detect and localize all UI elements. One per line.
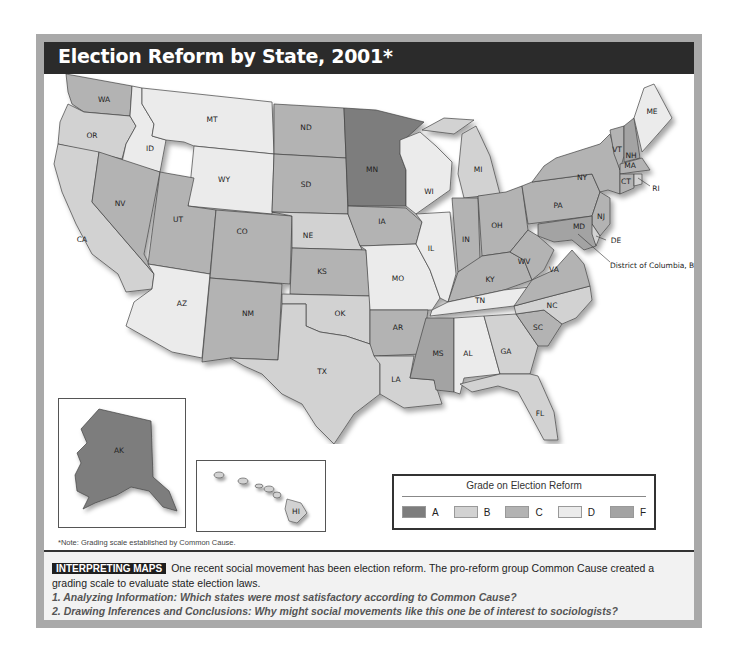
legend-label-c: C <box>535 507 542 518</box>
svg-text:NC: NC <box>547 301 558 310</box>
svg-text:IA: IA <box>378 217 386 226</box>
state-WI[interactable] <box>400 132 452 214</box>
svg-text:GA: GA <box>501 347 513 356</box>
map-panel: Election Reform by State, 2001* <box>44 42 694 620</box>
svg-text:MS: MS <box>432 349 443 358</box>
svg-text:KY: KY <box>485 275 495 284</box>
svg-text:CA: CA <box>77 235 88 244</box>
swatch-d <box>558 506 582 518</box>
svg-text:NM: NM <box>242 309 254 318</box>
swatch-b <box>454 506 478 518</box>
callout-ri: RI <box>652 184 659 193</box>
svg-text:NV: NV <box>115 199 127 208</box>
state-NM[interactable] <box>202 278 282 362</box>
svg-text:CT: CT <box>621 177 631 186</box>
svg-text:WI: WI <box>424 187 434 196</box>
svg-text:TN: TN <box>474 296 485 305</box>
svg-text:NJ: NJ <box>597 212 605 221</box>
svg-text:WA: WA <box>98 95 111 104</box>
legend-label-a: A <box>432 507 439 518</box>
svg-text:AK: AK <box>114 446 125 455</box>
legend-label-d: D <box>588 507 595 518</box>
interpreting-maps-text: INTERPRETING MAPSOne recent social movem… <box>52 561 684 618</box>
svg-text:AL: AL <box>463 349 473 358</box>
svg-text:VA: VA <box>549 265 560 274</box>
svg-text:ID: ID <box>146 144 154 153</box>
svg-text:CO: CO <box>236 227 247 236</box>
callout-de: DE <box>611 236 622 245</box>
legend: Grade on Election Reform A B C D <box>392 474 656 530</box>
legend-item-f: F <box>610 506 646 518</box>
state-KS[interactable] <box>290 248 370 296</box>
svg-text:IN: IN <box>462 235 470 244</box>
svg-text:OK: OK <box>335 309 347 318</box>
svg-text:NH: NH <box>625 151 636 160</box>
map-frame: Election Reform by State, 2001* <box>36 34 702 628</box>
svg-text:ME: ME <box>646 107 657 116</box>
inset-alaska: AK <box>58 398 186 528</box>
question-1: 1. Analyzing Information: Which states w… <box>52 591 517 603</box>
legend-item-c: C <box>505 506 542 518</box>
svg-text:TX: TX <box>316 367 327 376</box>
svg-text:SC: SC <box>533 323 543 332</box>
legend-item-b: B <box>454 506 491 518</box>
svg-text:MD: MD <box>573 222 585 231</box>
legend-title: Grade on Election Reform <box>394 480 654 491</box>
svg-text:MO: MO <box>392 274 404 283</box>
state-WY[interactable] <box>188 146 274 214</box>
svg-text:MI: MI <box>474 165 483 174</box>
svg-text:OH: OH <box>491 221 503 230</box>
legend-divider <box>402 496 646 497</box>
svg-text:MN: MN <box>366 165 378 174</box>
svg-text:VT: VT <box>612 145 622 154</box>
callout-dc: District of Columbia, B <box>610 261 694 270</box>
legend-label-f: F <box>640 507 646 518</box>
state-FL[interactable] <box>460 374 558 440</box>
svg-text:OR: OR <box>86 131 97 140</box>
svg-text:WY: WY <box>218 175 230 184</box>
question-2: 2. Drawing Inferences and Conclusions: W… <box>52 605 618 617</box>
svg-text:AR: AR <box>393 323 403 332</box>
svg-text:IL: IL <box>428 244 435 253</box>
interpreting-maps-badge: INTERPRETING MAPS <box>52 563 166 574</box>
legend-items: A B C D F <box>402 504 646 520</box>
legend-item-a: A <box>402 506 439 518</box>
interpreting-maps-panel: INTERPRETING MAPSOne recent social movem… <box>44 552 694 620</box>
state-AK[interactable] <box>75 409 177 511</box>
svg-text:FL: FL <box>536 409 545 418</box>
swatch-a <box>402 506 426 518</box>
svg-text:SD: SD <box>301 180 312 189</box>
svg-text:HI: HI <box>292 507 300 516</box>
svg-text:LA: LA <box>391 375 401 384</box>
svg-text:KS: KS <box>317 267 327 276</box>
svg-text:NE: NE <box>303 231 314 240</box>
svg-text:NY: NY <box>577 173 588 182</box>
svg-text:WV: WV <box>518 257 531 266</box>
title-bar: Election Reform by State, 2001* <box>44 42 694 74</box>
map-title: Election Reform by State, 2001* <box>58 45 393 67</box>
state-ME[interactable] <box>634 84 672 152</box>
svg-text:PA: PA <box>553 201 563 210</box>
inset-hawaii: HI <box>196 460 326 532</box>
legend-item-d: D <box>558 506 595 518</box>
svg-text:UT: UT <box>173 215 183 224</box>
swatch-f <box>610 506 634 518</box>
footnote: *Note: Grading scale established by Comm… <box>58 538 236 547</box>
us-map: WA OR CA ID MT WY NV UT CO AZ NM ND SD N… <box>44 74 694 444</box>
state-CO[interactable] <box>210 210 292 284</box>
svg-text:MA: MA <box>624 161 636 170</box>
svg-text:AZ: AZ <box>177 299 187 308</box>
svg-text:MT: MT <box>206 115 217 124</box>
svg-text:ND: ND <box>300 123 312 132</box>
swatch-c <box>505 506 529 518</box>
legend-label-b: B <box>484 507 491 518</box>
